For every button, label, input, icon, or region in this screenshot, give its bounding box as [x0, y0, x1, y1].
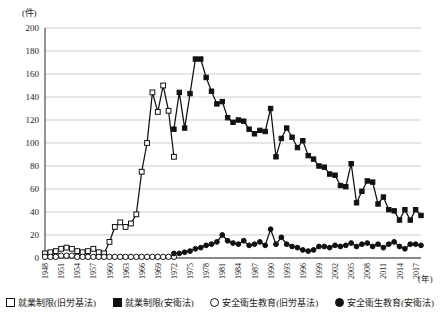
data-point	[279, 136, 283, 140]
data-point	[193, 246, 198, 251]
x-axis-tick-label-1975: 1975	[186, 263, 195, 279]
y-axis-tick-label-0: 0	[35, 253, 40, 263]
data-point	[129, 221, 134, 226]
x-axis-tick-label-2002: 2002	[331, 263, 340, 279]
x-axis-tick-label-2014: 2014	[396, 263, 405, 279]
data-point	[354, 244, 359, 249]
data-point	[123, 225, 128, 230]
data-point	[160, 254, 165, 259]
data-point	[48, 254, 53, 259]
data-point	[322, 244, 327, 249]
data-point	[42, 254, 47, 259]
legend-item-3: 安全衛生教育(安衛法)	[335, 296, 434, 309]
x-axis-tick-label-2017: 2017	[412, 263, 421, 279]
filled-circle-marker-icon	[335, 298, 344, 307]
data-point	[300, 248, 305, 253]
data-point	[214, 240, 219, 245]
data-point	[155, 254, 160, 259]
data-point	[274, 155, 278, 159]
data-point	[172, 251, 177, 256]
data-point	[365, 241, 370, 246]
data-point	[85, 254, 90, 259]
data-point	[263, 129, 267, 133]
x-axis-tick-label-2005: 2005	[347, 263, 356, 279]
y-axis-tick-label-40: 40	[30, 207, 40, 217]
data-point	[139, 169, 144, 174]
data-point	[231, 241, 236, 246]
x-axis-tick-label-1996: 1996	[299, 263, 308, 279]
data-point	[295, 145, 299, 149]
data-point	[295, 245, 300, 250]
data-point	[376, 242, 381, 247]
data-point	[241, 238, 246, 243]
x-axis-tick-label-1969: 1969	[154, 263, 163, 279]
data-point	[349, 162, 353, 166]
data-point	[338, 244, 343, 249]
data-point	[392, 209, 396, 213]
data-point	[327, 245, 332, 250]
data-point	[365, 179, 369, 183]
x-axis-tick-label-1960: 1960	[106, 263, 115, 279]
data-point	[209, 89, 213, 93]
data-point	[161, 83, 166, 88]
chart-plot-area: 0204060801001201401601802001948195119541…	[0, 0, 440, 313]
data-point	[306, 249, 311, 254]
legend-label-3: 安全衛生教育(安衛法)	[347, 296, 434, 309]
x-axis-tick-label-1963: 1963	[122, 263, 131, 279]
x-axis-tick-label-1987: 1987	[251, 263, 260, 279]
data-point	[381, 195, 385, 199]
data-point	[204, 243, 209, 248]
data-point	[215, 102, 219, 106]
y-axis-tick-label-160: 160	[26, 69, 40, 79]
data-point	[69, 253, 74, 258]
data-point	[322, 165, 326, 169]
data-point	[53, 249, 58, 254]
data-point	[397, 218, 401, 222]
legend-label-0: 就業制限(旧労基法)	[18, 296, 96, 309]
data-point	[252, 132, 256, 136]
data-point	[118, 254, 123, 259]
x-axis-tick-label-1990: 1990	[267, 263, 276, 279]
data-point	[91, 246, 96, 251]
data-point	[333, 243, 338, 248]
series-3	[172, 227, 424, 256]
x-axis-tick-label-1948: 1948	[41, 263, 50, 279]
y-axis-tick-label-200: 200	[26, 23, 40, 33]
data-point	[333, 173, 337, 177]
data-point	[220, 233, 225, 238]
data-point	[53, 254, 58, 259]
data-point	[290, 135, 294, 139]
data-point	[112, 254, 117, 259]
data-point	[381, 245, 386, 250]
data-point	[258, 128, 262, 132]
series-line-0	[45, 86, 174, 254]
data-point	[166, 254, 171, 259]
data-point	[58, 253, 63, 258]
x-axis-tick-label-1951: 1951	[57, 263, 66, 279]
data-point	[360, 242, 365, 247]
data-point	[101, 254, 106, 259]
series-2	[42, 253, 176, 260]
legend-item-1: 就業制限(安衛法)	[113, 296, 194, 309]
x-axis-tick-label-2008: 2008	[363, 263, 372, 279]
x-axis-tick-label-1999: 1999	[315, 263, 324, 279]
data-point	[112, 225, 117, 230]
data-point	[252, 242, 257, 247]
open-square-marker-icon	[6, 298, 15, 307]
data-point	[263, 243, 268, 248]
data-point	[204, 75, 208, 79]
data-point	[134, 254, 139, 259]
data-point	[166, 108, 171, 113]
data-point	[419, 213, 423, 217]
filled-square-marker-icon	[113, 298, 122, 307]
data-point	[317, 244, 322, 249]
data-point	[290, 244, 295, 249]
legend-item-0: 就業制限(旧労基法)	[6, 296, 96, 309]
y-axis-tick-label-20: 20	[30, 230, 40, 240]
data-point	[349, 241, 354, 246]
data-point	[301, 139, 305, 143]
series-1	[172, 57, 423, 222]
data-point	[118, 220, 123, 225]
data-point	[145, 141, 150, 146]
data-point	[408, 242, 413, 247]
